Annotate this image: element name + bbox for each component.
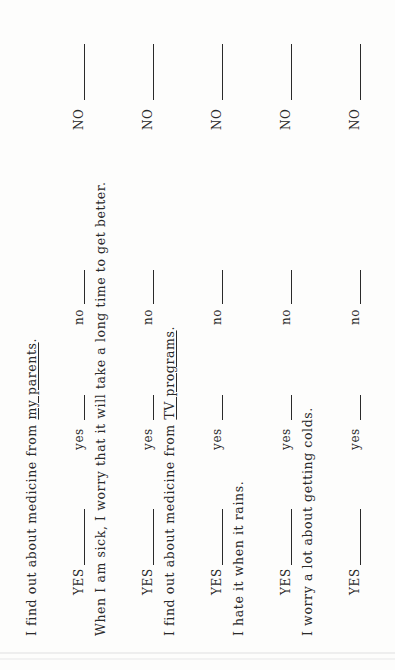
option-yes-blank[interactable]: [222, 395, 223, 420]
option-NO-blank[interactable]: [291, 44, 292, 100]
questionnaire-page: I find out about medicine from my parent…: [0, 0, 395, 670]
scan-artifact-line: [0, 658, 395, 660]
option-yes-label: yes: [348, 428, 362, 450]
option-no-blank[interactable]: [360, 270, 361, 304]
option-NO-label: NO: [279, 108, 293, 130]
option-no-blank[interactable]: [84, 270, 85, 304]
answer-row-1: YES yes no NO: [72, 0, 88, 670]
option-NO-blank[interactable]: [360, 44, 361, 100]
option-YES-label: YES: [72, 568, 86, 595]
answer-row-5: YES yes no NO: [348, 0, 364, 670]
option-no-blank[interactable]: [153, 270, 154, 304]
option-no-label: no: [210, 309, 224, 325]
option-yes-label: yes: [279, 428, 293, 450]
option-no-blank[interactable]: [291, 270, 292, 304]
statement-text: I worry a lot about getting colds.: [300, 407, 315, 636]
statement-1: I find out about medicine from my parent…: [25, 338, 39, 636]
statement-2: When I am sick, I worry that it will tak…: [94, 181, 108, 636]
option-no-blank[interactable]: [222, 270, 223, 304]
option-YES-blank[interactable]: [222, 509, 223, 565]
option-no-label: no: [141, 309, 155, 325]
document-viewport: I find out about medicine from my parent…: [0, 0, 395, 670]
option-YES-label: YES: [141, 568, 155, 595]
statement-suffix: .: [24, 338, 39, 343]
answer-row-4: YES yes no NO: [279, 0, 295, 670]
option-YES-blank[interactable]: [291, 509, 292, 565]
answer-row-3: YES yes no NO: [210, 0, 226, 670]
statement-3: I find out about medicine from TV progra…: [163, 326, 177, 636]
statement-4: I hate it when it rains.: [232, 481, 246, 636]
option-yes-blank[interactable]: [360, 395, 361, 420]
statement-text: When I am sick, I worry that it will tak…: [93, 181, 108, 636]
statement-5: I worry a lot about getting colds.: [301, 407, 315, 636]
option-YES-label: YES: [279, 568, 293, 595]
option-yes-label: yes: [72, 428, 86, 450]
option-NO-label: NO: [210, 108, 224, 130]
answer-row-2: YES yes no NO: [141, 0, 157, 670]
option-YES-blank[interactable]: [153, 509, 154, 565]
statement-suffix: .: [162, 326, 177, 331]
option-NO-blank[interactable]: [84, 44, 85, 100]
option-yes-blank[interactable]: [291, 395, 292, 420]
option-YES-blank[interactable]: [360, 509, 361, 565]
option-yes-blank[interactable]: [153, 395, 154, 420]
statement-underlined: my parents: [24, 342, 39, 419]
option-no-label: no: [72, 309, 86, 325]
option-yes-label: yes: [141, 428, 155, 450]
option-YES-label: YES: [348, 568, 362, 595]
scan-artifact-line: [0, 652, 395, 654]
option-NO-label: NO: [72, 108, 86, 130]
option-NO-label: NO: [141, 108, 155, 130]
option-YES-blank[interactable]: [84, 509, 85, 565]
option-no-label: no: [279, 309, 293, 325]
option-yes-label: yes: [210, 428, 224, 450]
option-yes-blank[interactable]: [84, 395, 85, 420]
option-NO-blank[interactable]: [222, 44, 223, 100]
option-YES-label: YES: [210, 568, 224, 595]
statement-text: I find out about medicine from: [24, 420, 39, 636]
option-no-label: no: [348, 309, 362, 325]
option-NO-blank[interactable]: [153, 44, 154, 100]
statement-text: I find out about medicine from: [162, 420, 177, 636]
statement-text: I hate it when it rains.: [231, 481, 246, 636]
statement-underlined: TV programs: [162, 330, 177, 419]
option-NO-label: NO: [348, 108, 362, 130]
